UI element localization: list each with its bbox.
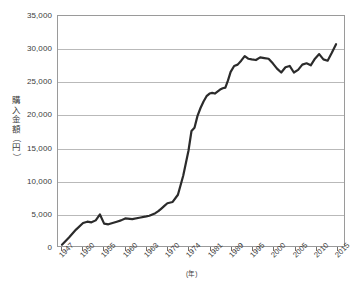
y-axis-tick-label: 5,000 — [31, 209, 52, 218]
y-axis-tick-label: 20,000 — [27, 110, 52, 119]
plot-area — [57, 15, 345, 247]
series-line-purchase-amount — [58, 16, 344, 246]
y-axis-title-char: （ — [12, 132, 21, 146]
y-axis-tick-label: 15,000 — [27, 143, 52, 152]
y-axis-tick-label: 35,000 — [27, 11, 52, 20]
x-axis-unit-label: (年) — [186, 268, 197, 278]
y-axis-title: 購入金額（円） — [9, 96, 23, 162]
y-axis-tick-label: 25,000 — [27, 77, 52, 86]
y-axis-title-char: ） — [12, 150, 21, 164]
y-axis-tick-label: 0 — [47, 243, 52, 252]
y-axis-tick-label: 10,000 — [27, 176, 52, 185]
line-chart: 購入金額（円） 05,00010,00015,00020,00025,00030… — [0, 0, 361, 288]
series-polyline — [62, 44, 336, 244]
y-axis-tick-label: 30,000 — [27, 44, 52, 53]
